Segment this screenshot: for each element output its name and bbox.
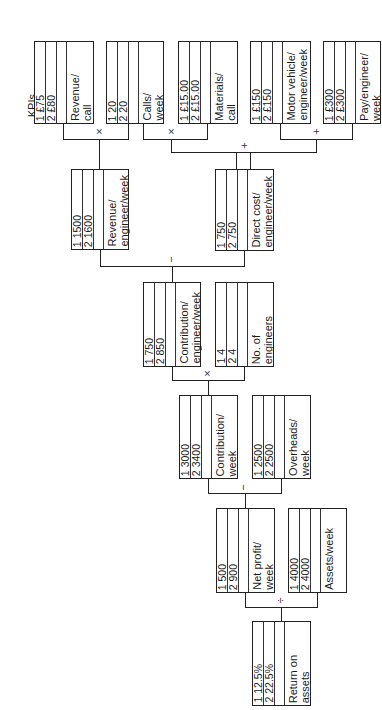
box-label: Calls/ week xyxy=(141,93,163,121)
value-scenario-2: 2 £150 xyxy=(262,89,272,121)
connector xyxy=(208,380,209,396)
connector xyxy=(316,139,317,153)
connector xyxy=(245,493,246,509)
connector xyxy=(63,139,129,140)
box-label: Assets/week xyxy=(323,528,346,590)
connector xyxy=(352,124,353,140)
box-revenue-per-engineer: 1 1500 2 1600 Revenue/ engineer/week xyxy=(71,169,129,250)
connector xyxy=(143,139,208,140)
operator-divide: ÷ xyxy=(275,597,286,603)
connector xyxy=(281,607,282,622)
connector xyxy=(172,367,173,381)
value-scenario-2: 2 £80 xyxy=(46,95,56,121)
value-scenario-2: 2 900 xyxy=(228,564,238,590)
box-contribution-per-week: 1 3000 2 3400 Contribution/ week xyxy=(179,395,238,479)
operator-plus: + xyxy=(239,142,250,148)
value-scenario-1: 1 2500 xyxy=(253,444,263,476)
connector xyxy=(280,124,281,140)
value-scenario-2: 2 £300 xyxy=(335,89,345,121)
box-label: Revenue/ engineer/week xyxy=(106,175,128,247)
connector xyxy=(208,479,209,494)
box-label: Overheads/ week xyxy=(287,419,310,476)
connector xyxy=(207,124,208,140)
box-label: Direct cost/ engineer/week xyxy=(250,176,273,248)
connector xyxy=(128,124,129,140)
connector xyxy=(63,124,64,140)
value-scenario-1: 1 £300 xyxy=(324,89,334,121)
connector xyxy=(99,139,100,170)
box-label: No. of engineers xyxy=(250,316,273,364)
value-scenario-2: 2 £15.00 xyxy=(190,80,200,121)
box-number-of-engineers: 1 4 2 4 No. of engineers xyxy=(215,282,274,367)
box-label: Contribution/ engineer/week xyxy=(178,292,200,364)
connector xyxy=(171,152,317,153)
box-materials-per-call: 1 £15.00 2 £15.00 Materials/ call xyxy=(178,41,238,124)
box-net-profit: 1 500 2 900 Net profit/ week xyxy=(216,508,275,593)
value-scenario-2: 2 1600 xyxy=(83,215,93,247)
box-label: Net profit/ week xyxy=(251,542,274,590)
connector xyxy=(172,266,173,283)
connector xyxy=(245,593,246,608)
value-scenario-1: 1 500 xyxy=(217,564,227,590)
connector xyxy=(250,152,251,170)
connector xyxy=(236,152,237,170)
value-scenario-1: 1 4 xyxy=(216,349,226,364)
box-assets: 1 4000 2 4000 Assets/week xyxy=(288,508,347,593)
box-calls-per-week: 1 20 2 20 Calls/ week xyxy=(106,41,164,124)
box-return-on-assets: 1 12.5% 2 22.5% Return on assets xyxy=(252,621,311,706)
connector xyxy=(317,593,318,608)
box-overheads: 1 2500 2 2500 Overheads/ week xyxy=(252,395,311,479)
value-scenario-1: 1 750 xyxy=(144,338,154,364)
value-scenario-1: 1 750 xyxy=(216,222,226,248)
box-motor-vehicle: 1 £150 2 £150 Motor vehicle/ engineer/we… xyxy=(250,41,311,124)
operator-plus: + xyxy=(311,128,322,134)
box-label: Return on assets xyxy=(287,655,310,703)
value-scenario-2: 2 22.5% xyxy=(264,664,274,703)
box-label: Motor vehicle/ engineer/week xyxy=(285,49,310,121)
box-label: Materials/ call xyxy=(213,73,237,121)
value-scenario-1: 1 3000 xyxy=(180,444,190,476)
value-scenario-1: 1 12.5% xyxy=(253,664,263,703)
value-scenario-2: 2 750 xyxy=(227,222,237,248)
value-scenario-1: 1 £15.00 xyxy=(179,80,189,121)
connector xyxy=(281,479,282,494)
box-label: Revenue/ call xyxy=(69,74,93,121)
value-scenario-2: 2 850 xyxy=(155,338,165,364)
connector xyxy=(100,250,101,267)
value-scenario-1: 1 1500 xyxy=(72,215,82,247)
operator-minus: − xyxy=(166,256,177,262)
value-scenario-2: 2 4000 xyxy=(300,558,310,590)
box-label: Pay/engineer/ week xyxy=(358,53,380,121)
operator-multiply: × xyxy=(202,370,213,376)
operator-minus: − xyxy=(238,484,249,490)
value-scenario-1: 1 4000 xyxy=(289,558,299,590)
box-contribution-per-engineer: 1 750 2 850 Contribution/ engineer/week xyxy=(143,282,201,367)
value-scenario-1: 1 £150 xyxy=(251,89,261,121)
value-scenario-2: 2 3400 xyxy=(191,444,201,476)
value-scenario-2: 2 2500 xyxy=(264,444,274,476)
connector xyxy=(171,139,172,153)
value-scenario-1: 1 20 xyxy=(107,101,117,121)
value-scenario-1: 1 £75 xyxy=(35,95,45,121)
operator-multiply: × xyxy=(94,128,105,134)
box-label: Contribution/ week xyxy=(214,414,237,476)
connector xyxy=(143,124,144,140)
connector xyxy=(244,367,245,381)
value-scenario-2: 2 20 xyxy=(118,101,128,121)
box-direct-cost: 1 750 2 750 Direct cost/ engineer/week xyxy=(215,169,274,251)
box-revenue-per-call: 1 £75 2 £80 Revenue/ call xyxy=(34,41,94,124)
connector xyxy=(244,251,245,267)
value-scenario-2: 2 4 xyxy=(227,349,237,364)
operator-multiply: × xyxy=(166,128,177,134)
box-pay-per-engineer: 1 £300 2 £300 Pay/engineer/ week xyxy=(323,41,381,124)
